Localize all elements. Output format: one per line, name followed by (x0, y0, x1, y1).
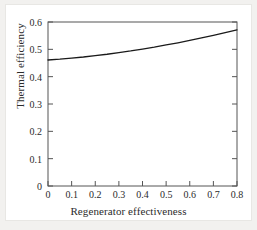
x-tick-label: 0.3 (113, 189, 126, 200)
right-axis-ticks (232, 22, 237, 186)
x-axis-ticks (48, 181, 237, 186)
plot-frame-rect (48, 22, 237, 186)
x-tick-label: 0.5 (160, 189, 173, 200)
x-tick-label: 0 (46, 189, 51, 200)
y-tick-label: 0.3 (0, 99, 42, 110)
x-tick-label: 0.8 (231, 189, 244, 200)
x-tick-label: 0.1 (65, 189, 78, 200)
y-axis-ticks (48, 22, 53, 186)
x-tick-label: 0.4 (136, 189, 149, 200)
x-tick-label: 0.2 (89, 189, 102, 200)
x-tick-label: 0.6 (184, 189, 197, 200)
data-series-line (48, 30, 237, 60)
y-tick-label: 0.5 (0, 44, 42, 55)
figure-page: Thermal efficiency Regenerator effective… (0, 0, 257, 230)
plot-frame (48, 22, 237, 186)
y-tick-label: 0.2 (0, 126, 42, 137)
x-tick-label: 0.7 (207, 189, 220, 200)
y-tick-label: 0.1 (0, 153, 42, 164)
y-tick-label: 0.6 (0, 17, 42, 28)
x-axis-label: Regenerator effectiveness (0, 205, 257, 217)
y-tick-label: 0 (0, 181, 42, 192)
y-tick-label: 0.4 (0, 71, 42, 82)
